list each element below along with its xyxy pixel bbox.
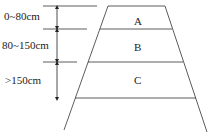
trapezoid-right-edge [165, 6, 207, 132]
depth-label-gt-150cm: >150cm [5, 74, 42, 86]
zone-label-a: A [134, 15, 142, 27]
zone-label-c: C [134, 74, 141, 86]
trapezoid-left-edge [64, 6, 108, 130]
zone-label-b: B [134, 41, 141, 53]
depth-label-0-80cm: 0~80cm [4, 10, 40, 22]
depth-label-80-150cm: 80~150cm [2, 39, 49, 51]
layered-trapezoid-diagram: 0~80cm 80~150cm >150cm A B C [0, 0, 211, 137]
